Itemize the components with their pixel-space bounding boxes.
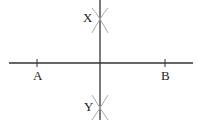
label-y: Y <box>84 99 94 114</box>
label-a: A <box>33 68 43 83</box>
label-x: X <box>83 10 93 25</box>
bisector-diagram: A B X Y <box>0 0 198 126</box>
label-b: B <box>161 68 170 83</box>
